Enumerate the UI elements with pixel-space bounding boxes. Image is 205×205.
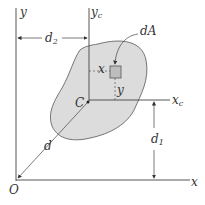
xc-axis-label: xc xyxy=(172,93,184,108)
area-element-dA xyxy=(110,66,121,78)
shaded-area xyxy=(50,41,146,140)
centroid-point xyxy=(87,101,90,104)
d1-label: d1 xyxy=(151,132,164,147)
origin-label: O xyxy=(9,183,19,197)
x-axis-label: x xyxy=(191,175,198,189)
yc-axis-label: yc xyxy=(90,5,103,20)
centroid-label: C xyxy=(75,96,84,110)
local-x-label: x xyxy=(98,62,105,76)
d2-label: d2 xyxy=(45,31,58,46)
diagram-canvas: y x O yc xc C dA d2 d1 d x y xyxy=(0,0,205,205)
y-axis-label: y xyxy=(19,5,27,19)
dA-label: dA xyxy=(140,24,157,38)
local-y-label: y xyxy=(116,83,124,97)
distance-d-label: d xyxy=(44,139,52,153)
parallel-axis-diagram: y x O yc xc C dA d2 d1 d x y xyxy=(0,0,205,205)
